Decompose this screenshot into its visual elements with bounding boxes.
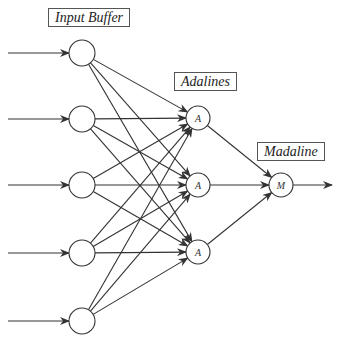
adaline-node: A <box>186 106 210 130</box>
input-node <box>69 172 95 198</box>
adaline-node: A <box>186 240 210 264</box>
network-graph: AAAM <box>0 0 348 346</box>
adaline-to-madaline-edge <box>207 193 271 245</box>
adaline-node: A <box>186 173 210 197</box>
input-node <box>69 308 95 334</box>
svg-text:A: A <box>194 113 202 124</box>
input-node <box>69 106 95 132</box>
input-to-adaline-edge <box>95 118 186 119</box>
input-buffer-label: Input Buffer <box>48 8 130 27</box>
madaline-node: M <box>269 173 293 197</box>
input-node <box>69 40 95 66</box>
input-to-adaline-edge <box>93 125 187 179</box>
input-to-adaline-edge <box>88 128 192 309</box>
svg-text:A: A <box>194 247 202 258</box>
svg-text:A: A <box>194 180 202 191</box>
adalines-label: Adalines <box>174 72 237 91</box>
madaline-network-diagram: AAAM Input Buffer Adalines Madaline <box>0 0 348 346</box>
madaline-label: Madaline <box>257 142 325 161</box>
input-node <box>69 240 95 266</box>
input-to-adaline-edge <box>93 124 187 178</box>
input-to-adaline-edge <box>93 258 188 314</box>
svg-text:M: M <box>276 180 286 191</box>
